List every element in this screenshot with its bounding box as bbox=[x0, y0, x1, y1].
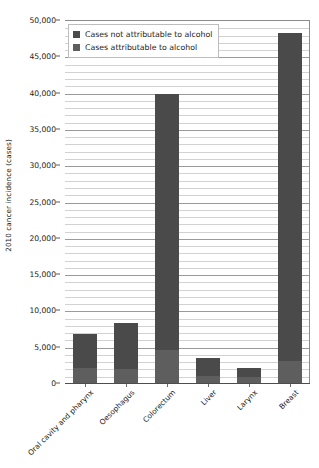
plot-area bbox=[65, 20, 310, 383]
bar-group[interactable] bbox=[278, 20, 302, 383]
bars-layer bbox=[65, 21, 309, 383]
legend-label: Cases attributable to alcohol bbox=[85, 43, 197, 52]
y-axis-title-text: 2010 cancer incidence (cases) bbox=[4, 139, 13, 252]
bar-group[interactable] bbox=[237, 20, 261, 383]
y-axis-tick-mark bbox=[56, 56, 60, 57]
legend-item[interactable]: Cases not attributable to alcohol bbox=[73, 28, 212, 41]
y-axis-tick-mark bbox=[56, 201, 60, 202]
bar-segment-not-attributable[interactable] bbox=[73, 334, 97, 368]
y-axis-tick-mark bbox=[56, 165, 60, 166]
y-axis-tick-label: 35,000 bbox=[29, 124, 56, 133]
legend-swatch-icon bbox=[73, 31, 80, 38]
y-axis-tick-label: 40,000 bbox=[29, 88, 56, 97]
legend-swatch-icon bbox=[73, 44, 80, 51]
y-axis-tick-label: 30,000 bbox=[29, 161, 56, 170]
bar-segment-attributable[interactable] bbox=[155, 350, 179, 383]
x-axis-tick-label: Breast bbox=[277, 388, 300, 411]
bar-segment-attributable[interactable] bbox=[73, 368, 97, 383]
y-axis-tick-label: 15,000 bbox=[29, 270, 56, 279]
bar-segment-not-attributable[interactable] bbox=[237, 368, 261, 377]
x-axis-tick-labels: Oral cavity and pharynxOesophagusColorec… bbox=[65, 383, 310, 468]
bar-segment-attributable[interactable] bbox=[278, 361, 302, 384]
x-axis-tick-label: Oral cavity and pharynx bbox=[26, 388, 95, 457]
y-axis-tick-mark bbox=[56, 237, 60, 238]
bar-group[interactable] bbox=[196, 20, 220, 383]
y-axis-tick-mark bbox=[56, 346, 60, 347]
x-axis-tick-label: Liver bbox=[199, 388, 218, 407]
legend-label: Cases not attributable to alcohol bbox=[85, 30, 212, 39]
x-axis-tick-label: Larynx bbox=[235, 388, 259, 412]
y-axis-tick-label: 50,000 bbox=[29, 16, 56, 25]
bar-segment-not-attributable[interactable] bbox=[278, 33, 302, 360]
x-axis-tick-label: Oesophagus bbox=[98, 388, 137, 427]
bar-segment-not-attributable[interactable] bbox=[196, 358, 220, 377]
y-axis-tick-mark bbox=[56, 92, 60, 93]
y-axis-tick-mark bbox=[56, 274, 60, 275]
cancer-incidence-chart: 2010 cancer incidence (cases) 05,00010,0… bbox=[0, 0, 319, 468]
y-axis-tick-label: 10,000 bbox=[29, 306, 56, 315]
chart-legend: Cases not attributable to alcoholCases a… bbox=[68, 24, 219, 58]
y-axis-tick-label: 5,000 bbox=[34, 342, 56, 351]
bar-segment-not-attributable[interactable] bbox=[155, 94, 179, 350]
y-axis-tick-mark bbox=[56, 20, 60, 21]
bar-segment-not-attributable[interactable] bbox=[114, 323, 138, 369]
y-axis-tick-label: 45,000 bbox=[29, 52, 56, 61]
y-axis-tick-label: 25,000 bbox=[29, 197, 56, 206]
bar-segment-attributable[interactable] bbox=[114, 369, 138, 383]
legend-item[interactable]: Cases attributable to alcohol bbox=[73, 41, 212, 54]
y-axis-tick-labels: 05,00010,00015,00020,00025,00030,00035,0… bbox=[14, 20, 60, 383]
y-axis-tick-mark bbox=[56, 128, 60, 129]
bar-group[interactable] bbox=[155, 20, 179, 383]
y-axis-tick-mark bbox=[56, 310, 60, 311]
y-axis-tick-mark bbox=[56, 383, 60, 384]
x-axis-tick-label: Colorectum bbox=[141, 388, 177, 424]
bar-group[interactable] bbox=[114, 20, 138, 383]
bar-group[interactable] bbox=[73, 20, 97, 383]
y-axis-tick-label: 20,000 bbox=[29, 233, 56, 242]
